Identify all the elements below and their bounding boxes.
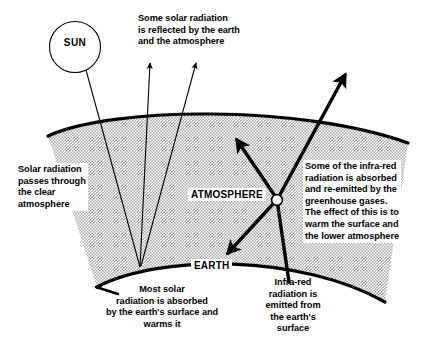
annotation-reflected-radiation: Some solar radiation is reflected by the… (136, 12, 242, 49)
annotation-infrared-emitted: Infra-red radiation is emitted from the … (245, 276, 341, 336)
annotation-most-solar-absorbed: Most solar radiation is absorbed by the … (86, 283, 238, 331)
annotation-solar-passes-through: Solar radiation passes through the clear… (16, 163, 88, 211)
earth-label: EARTH (191, 259, 232, 272)
greenhouse-effect-diagram: SUN ATMOSPHERE EARTH Some solar radiatio… (0, 0, 441, 344)
greenhouse-gas-node (272, 195, 283, 206)
atmosphere-label: ATMOSPHERE (188, 188, 266, 201)
annotation-infrared-absorbed: Some of the infra-red radiation is absor… (303, 160, 401, 243)
sun-label: SUN (50, 37, 100, 48)
